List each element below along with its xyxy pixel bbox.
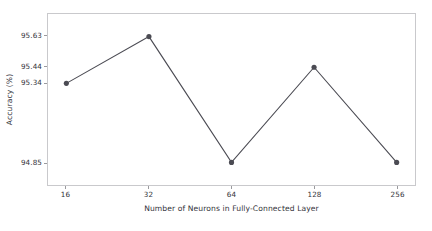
data-point-marker [229,160,234,165]
data-point-marker [146,34,151,39]
y-tick-label: 95.63 [21,30,42,42]
x-tick-label: 256 [391,190,405,199]
y-axis-ticks: 94.8595.3495.4495.63 [0,13,47,186]
x-tick-mark [314,186,315,189]
series-line [66,37,396,163]
x-tick-label: 32 [144,190,153,199]
data-point-marker [64,81,69,86]
x-tick-mark [231,186,232,189]
plot-area [47,13,416,186]
x-tick-mark [397,186,398,189]
x-tick-mark [148,186,149,189]
x-tick-label: 16 [61,190,70,199]
chart-figure: Accuracy (%) 94.8595.3495.4495.63 163264… [0,0,432,231]
y-tick-label: 94.85 [21,157,42,169]
line-series-layer [48,14,415,185]
x-tick-mark [65,186,66,189]
y-tick-label: 95.34 [21,77,42,89]
x-tick-label: 128 [308,190,322,199]
data-point-marker [311,65,316,70]
x-tick-label: 64 [227,190,236,199]
x-axis-title: Number of Neurons in Fully-Connected Lay… [47,204,416,213]
y-tick-label: 95.44 [21,61,42,73]
data-point-marker [394,160,399,165]
